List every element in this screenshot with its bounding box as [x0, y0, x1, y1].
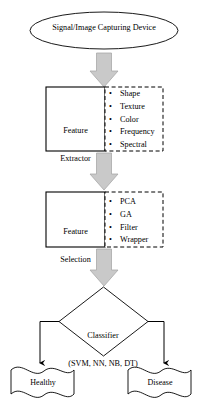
bullet-icon: • [109, 209, 112, 222]
list-item-label: GA [120, 210, 132, 219]
list-item: •Wrapper [106, 234, 163, 247]
bullet-icon: • [109, 196, 112, 209]
classifier-diamond-shape [59, 287, 148, 356]
list-item: •Spectral [106, 139, 163, 152]
bullet-icon: • [109, 126, 112, 139]
list-item: •PCA [106, 196, 163, 209]
list-item: •Color [106, 114, 163, 127]
disease-banner-shape [128, 367, 191, 397]
feature-selection-box-shape [46, 192, 105, 247]
list-item-label: Frequency [120, 127, 155, 136]
flowchart-diagram: Signal/Image Capturing Device Feature Ex… [0, 0, 203, 408]
connector-classifier-to-disease [148, 322, 164, 364]
list-item: •Shape [106, 88, 163, 101]
feature-extractor-options-list: •Shape •Texture •Color •Frequency •Spect… [106, 88, 163, 152]
bullet-icon: • [109, 234, 112, 247]
list-item-label: PCA [120, 197, 136, 206]
list-item: •Frequency [106, 126, 163, 139]
source-ellipse-shape [30, 12, 178, 49]
bullet-icon: • [109, 222, 112, 235]
list-item-label: Shape [120, 89, 140, 98]
list-item-label: Filter [120, 223, 138, 232]
list-item-label: Wrapper [120, 235, 148, 244]
block-arrow-source-to-extractor [90, 53, 118, 87]
feature-selection-options-list: •PCA •GA •Filter •Wrapper [106, 196, 163, 247]
healthy-banner-shape [11, 367, 74, 397]
flowchart-shapes-layer [0, 0, 203, 408]
connector-classifier-to-healthy [40, 322, 59, 364]
list-item-label: Spectral [120, 140, 147, 149]
list-item: •Filter [106, 222, 163, 235]
block-arrow-extractor-to-selection [90, 153, 118, 190]
list-item: •Texture [106, 101, 163, 114]
bullet-icon: • [109, 88, 112, 101]
bullet-icon: • [109, 139, 112, 152]
feature-extractor-box-shape [46, 87, 105, 151]
bullet-icon: • [109, 114, 112, 127]
list-item-label: Color [120, 115, 139, 124]
list-item: •GA [106, 209, 163, 222]
bullet-icon: • [109, 101, 112, 114]
block-arrow-selection-to-classifier [90, 249, 118, 286]
list-item-label: Texture [120, 102, 145, 111]
